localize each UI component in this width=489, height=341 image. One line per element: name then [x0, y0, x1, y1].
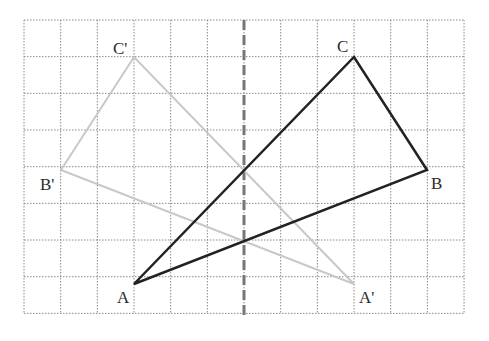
- label-b-prime: B': [40, 175, 54, 194]
- reflection-diagram: C' C B' B A A': [0, 0, 489, 341]
- label-c-prime: C': [113, 39, 127, 58]
- label-a-prime: A': [359, 288, 374, 307]
- label-c: C: [337, 37, 348, 56]
- label-a: A: [117, 288, 130, 307]
- label-b: B: [431, 174, 442, 193]
